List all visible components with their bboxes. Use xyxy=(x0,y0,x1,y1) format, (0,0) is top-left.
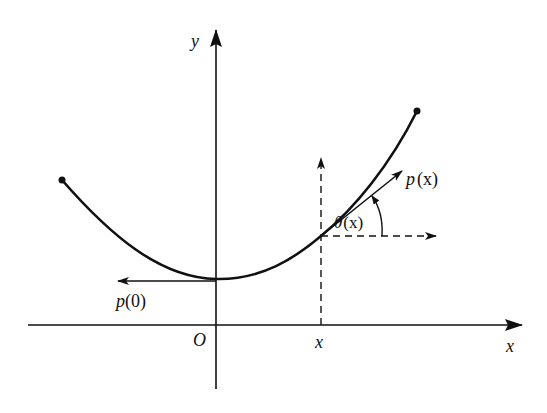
p0-label-fn: p xyxy=(114,291,125,311)
origin-label: O xyxy=(193,330,206,350)
curve-right-endpoint xyxy=(414,108,421,115)
theta-label-sym: θ xyxy=(334,213,342,232)
theta-label-arg: (x) xyxy=(343,213,363,232)
diagram-canvas: y x O x p(0) p(x) θ(x) xyxy=(0,0,547,413)
curve-left-endpoint xyxy=(59,177,66,184)
theta-label: θ(x) xyxy=(334,213,363,232)
x-tick-label: x xyxy=(314,332,323,352)
p0-label-arg: (0) xyxy=(125,291,146,312)
curve xyxy=(62,111,417,279)
angle-arc xyxy=(372,196,382,236)
y-axis-label: y xyxy=(189,31,199,51)
px-label: p(x) xyxy=(404,169,438,190)
x-axis-label: x xyxy=(505,336,514,356)
p0-label: p(0) xyxy=(114,291,146,312)
px-label-fn: p xyxy=(404,169,415,189)
px-label-arg: (x) xyxy=(417,169,438,190)
